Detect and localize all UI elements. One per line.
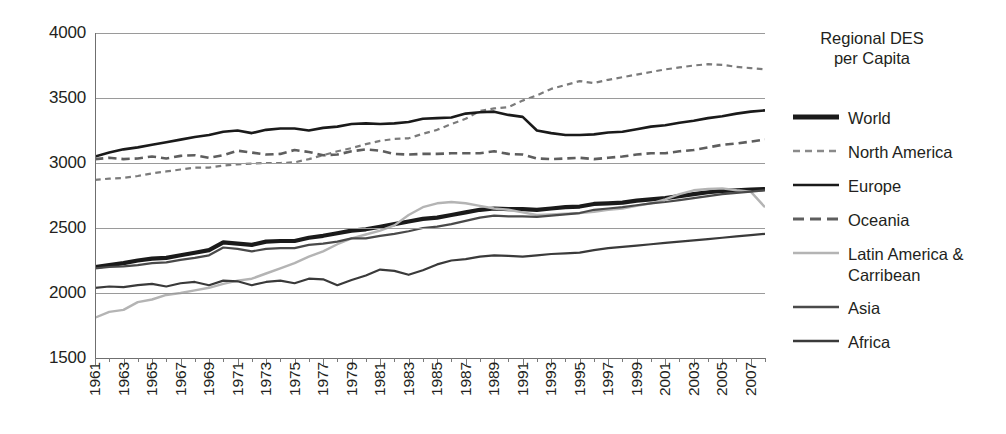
legend-item[interactable]: Latin America & Carribean: [793, 244, 1003, 298]
x-tick-label: 1973: [258, 362, 274, 396]
legend-title-line1: Regional DES: [797, 28, 947, 48]
y-tick-label: 3500: [34, 89, 86, 106]
legend-item-label: Latin America & Carribean: [848, 244, 964, 286]
x-tick-label: 1965: [144, 362, 160, 396]
gridline: [95, 293, 765, 294]
legend-item[interactable]: North America: [793, 142, 1003, 176]
x-tick-label: 1995: [572, 362, 588, 396]
legend-swatch-dotted-solid: [793, 300, 839, 320]
legend-item[interactable]: World: [793, 108, 1003, 142]
legend-swatch-long-dash: [793, 212, 839, 232]
y-tick-label: 1500: [34, 349, 86, 366]
gridline: [95, 98, 765, 99]
legend-item-label: Asia: [848, 298, 880, 319]
x-tick-label: 1999: [629, 362, 645, 396]
legend-title: Regional DES per Capita: [797, 28, 947, 68]
x-tick-label: 1983: [401, 362, 417, 396]
y-tick-label: 2500: [34, 219, 86, 236]
legend-item-label: Africa: [848, 332, 890, 353]
x-tick-label: 1987: [458, 362, 474, 396]
gridline: [95, 33, 765, 34]
x-tick-label: 1993: [543, 362, 559, 396]
gridline: [95, 163, 765, 164]
x-tick-label: 1971: [230, 362, 246, 396]
x-tick-label: 2003: [686, 362, 702, 396]
legend-item[interactable]: Asia: [793, 298, 1003, 332]
legend-swatch-thick-solid: [793, 110, 839, 130]
x-tick-label: 2007: [743, 362, 759, 396]
gridline: [95, 228, 765, 229]
x-tick-label: 1969: [201, 362, 217, 396]
legend-items: WorldNorth AmericaEuropeOceaniaLatin Ame…: [793, 108, 1003, 366]
x-axis-tick-labels: 1961196319651967196919711973197519771979…: [95, 362, 775, 434]
series-line: [95, 190, 765, 268]
x-tick-label: 1975: [287, 362, 303, 396]
x-tick-label: 1997: [600, 362, 616, 396]
x-tick-label: 1963: [116, 362, 132, 396]
x-tick-label: 1991: [515, 362, 531, 396]
y-tick-label: 3000: [34, 154, 86, 171]
legend-item[interactable]: Oceania: [793, 210, 1003, 244]
series-lines: [95, 33, 765, 358]
legend-swatch-fine-dash: [793, 144, 839, 164]
legend-item[interactable]: Europe: [793, 176, 1003, 210]
x-tick-label: 1985: [429, 362, 445, 396]
legend-swatch-dark-solid: [793, 334, 839, 354]
legend: Regional DES per Capita WorldNorth Ameri…: [793, 28, 1003, 366]
x-tick-label: 1967: [173, 362, 189, 396]
y-tick-label: 2000: [34, 284, 86, 301]
x-tick-label: 1981: [372, 362, 388, 396]
series-line: [95, 140, 765, 160]
plot-area: [95, 33, 765, 358]
legend-item-label: World: [848, 108, 891, 129]
chart-figure: 150020002500300035004000 196119631965196…: [0, 0, 1006, 434]
x-tick-label: 1977: [315, 362, 331, 396]
legend-item-label: North America: [848, 142, 953, 163]
x-tick-label: 2005: [714, 362, 730, 396]
legend-title-line2: per Capita: [797, 48, 947, 68]
y-axis-line: [95, 33, 96, 358]
legend-item[interactable]: Africa: [793, 332, 1003, 366]
series-line: [95, 110, 765, 156]
legend-swatch-light-solid: [793, 246, 839, 266]
x-tick-label: 1989: [486, 362, 502, 396]
series-line: [95, 234, 765, 288]
legend-swatch-solid: [793, 178, 839, 198]
y-tick-label: 4000: [34, 24, 86, 41]
x-tick-label: 2001: [657, 362, 673, 396]
x-tick-label: 1979: [344, 362, 360, 396]
legend-item-label: Oceania: [848, 210, 909, 231]
y-axis-tick-labels: 150020002500300035004000: [30, 0, 86, 434]
legend-item-label: Europe: [848, 176, 901, 197]
x-tick-label: 1961: [87, 362, 103, 396]
